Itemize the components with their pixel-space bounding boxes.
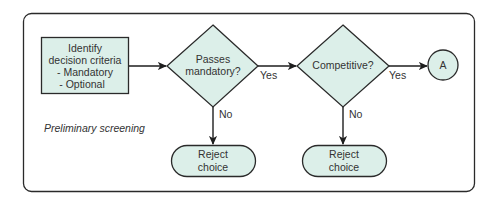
reject1-line-2: choice — [198, 161, 229, 173]
terminal-reject-choice-1: Reject choice — [172, 146, 256, 177]
edge-label-no-2: No — [349, 108, 363, 120]
mandatory-line-1: Passes — [196, 53, 230, 65]
connector-label: A — [439, 59, 446, 71]
process-identify-criteria: Identify decision criteria - Mandatory -… — [42, 38, 129, 94]
connector-a: A — [428, 50, 458, 80]
edge-label-yes-2: Yes — [389, 69, 406, 81]
reject1-line-1: Reject — [198, 148, 228, 160]
terminal-reject-choice-2: Reject choice — [303, 146, 387, 177]
criteria-line-3: - Mandatory — [57, 66, 114, 78]
criteria-line-4: - Optional — [59, 78, 105, 90]
mandatory-line-2: mandatory? — [185, 65, 241, 77]
criteria-line-2: decision criteria — [49, 54, 122, 66]
criteria-line-1: Identify — [68, 42, 103, 54]
reject2-line-2: choice — [329, 161, 360, 173]
diagram-caption: Preliminary screening — [44, 122, 145, 134]
competitive-line-1: Competitive? — [312, 59, 373, 71]
edge-label-yes-1: Yes — [260, 69, 277, 81]
reject2-line-1: Reject — [329, 148, 359, 160]
edge-label-no-1: No — [219, 108, 233, 120]
flowchart: Yes Yes No No Identify decision criteria… — [0, 0, 494, 203]
